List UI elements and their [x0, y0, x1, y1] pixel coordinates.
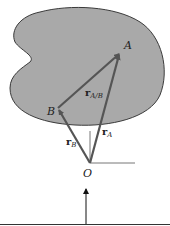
point-b-label: B — [46, 105, 55, 118]
point-a-label: A — [123, 39, 132, 52]
relative-position-diagram: A B O rA/B rA rB — [0, 0, 170, 226]
origin-o-label: O — [83, 167, 92, 180]
rigid-body-shape — [10, 7, 164, 125]
vector-r-a-label: rA — [102, 126, 112, 139]
